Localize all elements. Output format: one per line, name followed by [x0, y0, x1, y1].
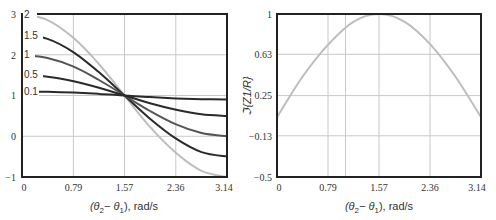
x-tick: 0 — [277, 182, 282, 193]
y-tick: 0.63 — [255, 49, 273, 60]
right-y-axis-label: ℑ{Z1/R} — [241, 76, 253, 116]
x-tick: 0.79 — [319, 182, 337, 193]
y-tick: 1 — [267, 9, 272, 20]
x-tick: 0.79 — [65, 182, 83, 193]
x-tick: 1.57 — [370, 182, 388, 193]
curve-label-2: 2 — [24, 9, 30, 20]
y-tick: 1 — [11, 90, 16, 101]
curve-label-0.5: 0.5 — [24, 69, 38, 80]
y-tick: −0.5 — [254, 172, 272, 183]
left-x-ticks: 0 0.79 1.57 2.36 3.14 — [22, 182, 233, 193]
y-tick: −0.13 — [249, 131, 272, 142]
left-y-ticks: −1 0 1 2 3 — [5, 9, 16, 183]
y-tick: 2 — [11, 50, 16, 61]
curve-label-0.1: 0.1 — [24, 86, 38, 97]
right-grid — [277, 14, 481, 177]
chart-canvas: 2 1.5 1 0.5 0.1 −1 0 1 2 3 0 0.79 1.57 2… — [0, 0, 496, 220]
right-chart: −0.5 −0.13 0.25 0.63 1 0 0.79 1.57 2.36 … — [241, 9, 486, 215]
left-x-axis-label: (θ2− θ1), rad/s — [90, 200, 159, 215]
y-tick: 0 — [11, 131, 16, 142]
x-tick: 3.14 — [468, 182, 486, 193]
left-curve-labels: 2 1.5 1 0.5 0.1 — [23, 8, 43, 98]
y-tick: −1 — [5, 172, 16, 183]
x-tick: 3.14 — [215, 182, 233, 193]
x-tick: 2.36 — [421, 182, 439, 193]
right-x-axis-label: (θ2− θ1), rad/s — [345, 200, 414, 215]
y-tick: 3 — [11, 9, 16, 20]
x-tick: 0 — [22, 182, 27, 193]
left-chart: 2 1.5 1 0.5 0.1 −1 0 1 2 3 0 0.79 1.57 2… — [5, 8, 232, 215]
y-tick: 0.25 — [255, 90, 273, 101]
x-tick: 1.57 — [116, 182, 134, 193]
curve-label-1.5: 1.5 — [24, 30, 38, 41]
right-x-ticks: 0 0.79 1.57 2.36 3.14 — [277, 182, 486, 193]
curve-label-1: 1 — [24, 49, 30, 60]
x-tick: 2.36 — [167, 182, 185, 193]
